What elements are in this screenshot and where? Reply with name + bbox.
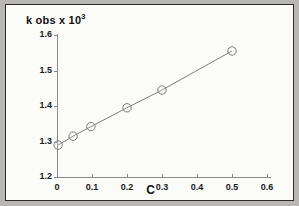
data-series-layer <box>6 5 295 202</box>
data-point-marker <box>54 141 62 149</box>
data-point-marker <box>228 47 236 55</box>
data-point-marker <box>123 104 131 112</box>
plot-canvas: k obs x 103 1.21.31.41.51.6 00.10.20.30.… <box>6 5 295 202</box>
x-axis-title: C <box>6 183 295 197</box>
data-point-marker <box>158 86 166 94</box>
data-point-marker <box>87 122 95 130</box>
figure-root: k obs x 103 1.21.31.41.51.6 00.10.20.30.… <box>0 0 299 206</box>
series-line <box>58 51 232 145</box>
figure-frame: k obs x 103 1.21.31.41.51.6 00.10.20.30.… <box>5 4 294 201</box>
data-point-marker <box>69 132 77 140</box>
